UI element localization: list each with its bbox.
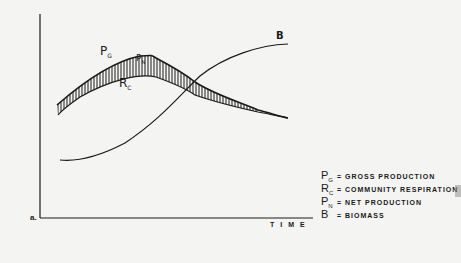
pn-area-label: PN [136, 54, 145, 65]
legend-item-community-respiration: RC = COMMUNITY RESPIRATION [321, 182, 458, 195]
biomass-curve-label: B [276, 31, 284, 41]
legend-item-gross-production: PG = GROSS PRODUCTION [321, 169, 458, 182]
pg-curve-label: PG [100, 45, 112, 59]
x-axis-label: TIME [270, 221, 311, 228]
origin-label: a. [30, 213, 37, 222]
chart-canvas [0, 0, 461, 263]
legend-item-biomass: B = BIOMASS [321, 208, 458, 221]
net-production-band [57, 55, 258, 115]
rc-curve-label: RC [119, 77, 132, 91]
biomass-curve [60, 44, 288, 160]
page-edge-shadow [455, 185, 461, 197]
legend: PG = GROSS PRODUCTION RC = COMMUNITY RES… [321, 169, 458, 221]
legend-item-net-production: PN = NET PRODUCTION [321, 195, 458, 208]
